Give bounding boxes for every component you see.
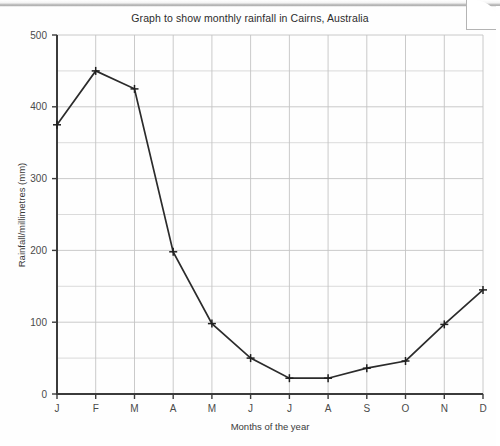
marker-S xyxy=(363,364,371,372)
scanned-page: Graph to show monthly rainfall in Cairns… xyxy=(0,0,500,446)
y-axis-title: Rainfall/millimetres (mm) xyxy=(16,163,27,268)
x-tick-label-5: J xyxy=(248,403,253,414)
x-tick-label-0: J xyxy=(55,403,60,414)
x-tick-label-7: A xyxy=(325,403,332,414)
gridlines-horizontal-minor xyxy=(57,71,483,358)
x-axis-tick-labels: JFMAMJJASOND xyxy=(55,403,487,414)
x-tick-label-4: M xyxy=(208,403,216,414)
chart-plot-area: 0100200300400500 JFMAMJJASOND Rainfall/m… xyxy=(0,0,500,446)
marker-A xyxy=(324,374,332,382)
y-tick-label-200: 200 xyxy=(30,245,47,256)
rainfall-line xyxy=(57,71,483,378)
x-tick-label-8: S xyxy=(363,403,370,414)
x-tick-label-11: D xyxy=(479,403,486,414)
marker-A xyxy=(169,248,177,256)
marker-J xyxy=(285,374,293,382)
x-tick-label-3: A xyxy=(170,403,177,414)
marker-M xyxy=(131,85,139,93)
y-axis-tick-labels: 0100200300400500 xyxy=(30,30,47,400)
x-axis-title: Months of the year xyxy=(231,421,310,432)
y-tick-label-400: 400 xyxy=(30,101,47,112)
x-tick-label-9: O xyxy=(402,403,410,414)
x-tick-label-6: J xyxy=(287,403,292,414)
x-tick-label-2: M xyxy=(130,403,138,414)
y-tick-label-0: 0 xyxy=(41,389,47,400)
x-tick-label-10: N xyxy=(441,403,448,414)
y-tick-label-100: 100 xyxy=(30,317,47,328)
y-tick-label-500: 500 xyxy=(30,30,47,41)
data-point-markers xyxy=(53,67,487,382)
y-tick-label-300: 300 xyxy=(30,173,47,184)
x-tick-label-1: F xyxy=(93,403,99,414)
line-chart-svg: 0100200300400500 JFMAMJJASOND Rainfall/m… xyxy=(0,0,500,446)
